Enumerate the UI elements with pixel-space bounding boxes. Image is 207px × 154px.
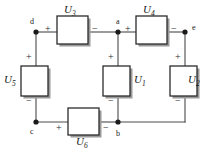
- component-box-u3[interactable]: [57, 16, 91, 47]
- u6-body: [68, 108, 99, 135]
- polarity-u1-plus: +: [108, 52, 114, 62]
- node-dot-d: [33, 29, 38, 34]
- node-dot-b: [115, 119, 120, 124]
- node-label-b: b: [116, 130, 120, 138]
- node-dot-e: [182, 29, 187, 34]
- polarity-u4-minus: −: [171, 24, 177, 34]
- u3-body: [57, 16, 88, 44]
- polarity-u5-plus: +: [26, 52, 32, 62]
- u1-body: [103, 66, 130, 96]
- polarity-u6-minus: −: [103, 123, 109, 133]
- node-label-d: d: [30, 18, 34, 26]
- node-label-a: a: [116, 18, 120, 26]
- component-label-u5: U5: [4, 74, 16, 88]
- component-label-u4: U4: [143, 4, 155, 18]
- component-label-u1: U1: [134, 74, 146, 88]
- polarity-u2-plus: +: [175, 52, 181, 62]
- u5-body: [21, 66, 48, 96]
- u4-body: [136, 16, 167, 44]
- component-label-u3: U3: [64, 4, 76, 18]
- node-dot-a: [115, 29, 120, 34]
- component-label-u6: U6: [76, 136, 88, 150]
- polarity-u2-minus: −: [175, 96, 181, 106]
- node-dot-c: [33, 119, 38, 124]
- polarity-u3-minus: −: [92, 24, 98, 34]
- polarity-u1-minus: −: [108, 96, 114, 106]
- circuit-diagram-canvas: U3 U4 U5 U1 U2 U6 d a e c b + − + − + − …: [0, 0, 207, 154]
- polarity-u6-plus: +: [56, 123, 62, 133]
- node-label-c: c: [30, 128, 34, 136]
- node-label-e: e: [192, 24, 196, 32]
- component-label-u2: U2: [188, 74, 200, 88]
- polarity-u5-minus: −: [26, 96, 32, 106]
- component-box-u5[interactable]: [21, 66, 51, 99]
- component-box-u6[interactable]: [68, 108, 102, 138]
- component-box-u4[interactable]: [136, 16, 170, 47]
- component-box-u1[interactable]: [103, 66, 133, 99]
- polarity-u3-plus: +: [45, 24, 51, 34]
- polarity-u4-plus: +: [125, 24, 131, 34]
